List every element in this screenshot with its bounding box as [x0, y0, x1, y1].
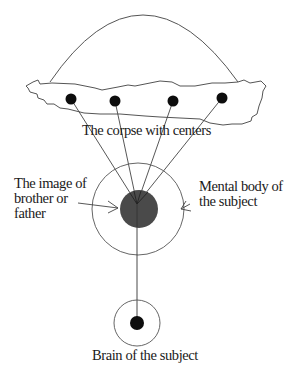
arc-line — [50, 15, 238, 82]
center-dot-2 — [110, 96, 121, 107]
brain-dot — [130, 316, 144, 330]
label-image: The image of brother or father — [14, 176, 87, 221]
center-dot-4 — [217, 93, 228, 104]
center-dot-1 — [66, 94, 77, 105]
label-corpse: The corpse with centers — [82, 123, 211, 138]
corpse-outline — [26, 80, 266, 125]
image-circle — [120, 190, 158, 228]
center-dot-3 — [168, 96, 179, 107]
arrow-to-mental-body — [181, 201, 191, 211]
label-brain: Brain of the subject — [92, 348, 198, 363]
label-mental-body: Mental body of the subject — [199, 179, 283, 209]
